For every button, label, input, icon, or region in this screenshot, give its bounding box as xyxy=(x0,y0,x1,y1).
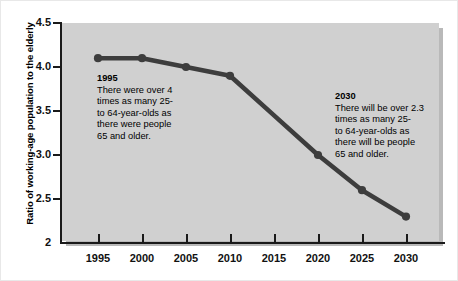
annotation-1995-body: There were over 4 times as many 25- to 6… xyxy=(97,85,187,142)
x-tick-mark xyxy=(362,234,364,243)
x-tick-label: 2005 xyxy=(164,252,208,264)
x-tick-mark xyxy=(142,234,144,243)
y-tick-mark xyxy=(53,66,61,68)
x-axis-line xyxy=(60,242,445,244)
y-tick-label: 3.5 xyxy=(5,105,51,116)
annotation-1995: 1995 There were over 4 times as many 25-… xyxy=(97,73,187,142)
x-tick-label: 1995 xyxy=(76,252,120,264)
x-tick-mark xyxy=(230,234,232,243)
y-axis-title: Ratio of working-age population to the e… xyxy=(24,4,35,244)
x-tick-mark xyxy=(318,234,320,243)
y-tick-label: 4.0 xyxy=(5,61,51,72)
x-tick-mark xyxy=(274,234,276,243)
annotation-2030: 2030 There will be over 2.3 times as man… xyxy=(335,91,439,160)
x-tick-mark xyxy=(406,234,408,243)
x-tick-mark xyxy=(186,234,188,243)
x-tick-label: 2015 xyxy=(252,252,296,264)
x-tick-label: 2030 xyxy=(384,252,428,264)
y-tick-label: 2.5 xyxy=(5,193,51,204)
y-tick-label: 2 xyxy=(5,237,51,248)
annotation-2030-body: There will be over 2.3 times as many 25-… xyxy=(335,103,439,160)
x-tick-label: 2020 xyxy=(296,252,340,264)
annotation-1995-heading: 1995 xyxy=(97,73,187,84)
y-tick-mark xyxy=(53,154,61,156)
y-tick-mark xyxy=(53,110,61,112)
y-tick-mark xyxy=(53,22,61,24)
y-axis-line xyxy=(60,22,62,244)
chart-frame: Ratio of working-age population to the e… xyxy=(0,0,458,281)
x-tick-label: 2010 xyxy=(208,252,252,264)
annotation-2030-heading: 2030 xyxy=(335,91,439,102)
x-tick-label: 2025 xyxy=(340,252,384,264)
y-tick-label: 3.0 xyxy=(5,149,51,160)
y-tick-mark xyxy=(53,198,61,200)
y-tick-label: 4.5 xyxy=(5,17,51,28)
x-tick-mark xyxy=(98,234,100,243)
x-tick-label: 2000 xyxy=(120,252,164,264)
